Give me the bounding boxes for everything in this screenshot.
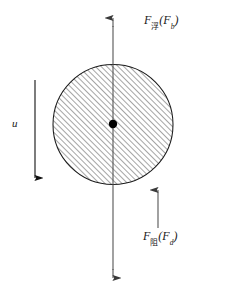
- physics-diagram: F浮(Fb) F阻(Fd) u: [0, 0, 225, 291]
- center-of-mass-dot: [109, 120, 117, 128]
- figure-canvas: [0, 0, 225, 291]
